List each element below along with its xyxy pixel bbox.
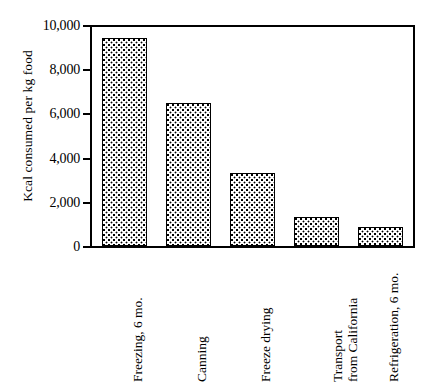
bar-refrigeration-6-mo: [358, 227, 403, 246]
x-tick-label-line: Freezing, 6 mo.: [130, 297, 145, 382]
y-tick-label-0: 0: [22, 240, 80, 254]
bar-freezing-6-mo: [102, 38, 147, 246]
x-tick-label-canning: Canning: [194, 336, 209, 382]
plot-area: [92, 27, 413, 246]
x-tick-label-freeze-drying: Freeze drying: [258, 307, 273, 382]
x-tick-label-line: Canning: [194, 336, 209, 382]
bar-freeze-drying: [230, 173, 275, 246]
x-tick-label-line: Transport: [330, 298, 345, 382]
x-tick-label-transport-from-california: Transportfrom California: [330, 298, 360, 382]
x-tick-label-refrigeration-6-mo: Refrigeration, 6 mo.: [386, 273, 401, 382]
y-tick-label-8000: 8,000: [22, 63, 80, 77]
y-tick-label-6000: 6,000: [22, 107, 80, 121]
y-axis-tick-labels: 10,000 8,000 6,000 4,000 2,000 0: [22, 0, 80, 388]
bar-transport-from-california: [294, 217, 339, 246]
chart-figure: Kcal consumed per kg food 10,000 8,000 6…: [0, 0, 437, 388]
x-tick-label-line: Refrigeration, 6 mo.: [386, 273, 401, 382]
x-tick-label-line: from California: [345, 298, 360, 382]
x-tick-label-line: Freeze drying: [258, 307, 273, 382]
y-tick-label-2000: 2,000: [22, 196, 80, 210]
x-tick-label-freezing-6-mo: Freezing, 6 mo.: [130, 297, 145, 382]
y-tick-label-10000: 10,000: [22, 19, 80, 33]
bar-canning: [166, 103, 211, 246]
y-tick-label-4000: 4,000: [22, 152, 80, 166]
plot-frame: [90, 25, 415, 248]
x-axis-tick-labels: Freezing, 6 mo. Canning Freeze drying Tr…: [90, 252, 415, 388]
